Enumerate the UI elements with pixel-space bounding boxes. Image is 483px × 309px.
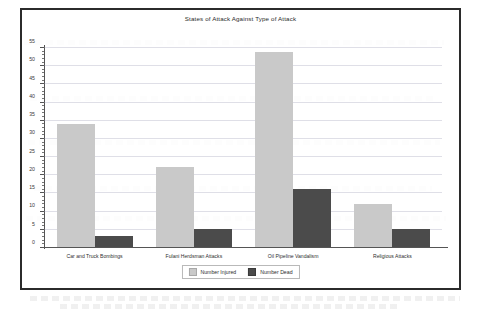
y-tick-label: 20 xyxy=(29,166,35,172)
y-tick-minor xyxy=(42,185,44,186)
chart-figure-frame: States of Attack Against Type of Attack … xyxy=(20,8,461,290)
y-tick-minor xyxy=(42,123,44,124)
bar-group: Car and Truck Bombings xyxy=(45,48,144,247)
y-tick-major: 55 xyxy=(40,47,44,48)
bar-injured[interactable] xyxy=(354,204,392,247)
y-tick-major: 35 xyxy=(40,120,44,121)
x-tick-label: Oil Pipeline Vandalism xyxy=(244,253,343,259)
y-tick-minor xyxy=(42,116,44,117)
legend-swatch-icon-injured xyxy=(188,268,196,276)
y-tick-minor xyxy=(42,127,44,128)
y-tick-label: 5 xyxy=(32,221,35,227)
y-tick-minor xyxy=(42,72,44,73)
y-tick-label: 40 xyxy=(29,93,35,99)
y-tick-minor xyxy=(42,232,44,233)
y-tick-label: 55 xyxy=(29,38,35,44)
y-tick-minor xyxy=(42,207,44,208)
y-tick-major: 0 xyxy=(40,247,44,248)
y-tick-major: 5 xyxy=(40,229,44,230)
y-tick-label: 30 xyxy=(29,129,35,135)
y-tick-minor xyxy=(42,145,44,146)
y-tick-minor xyxy=(42,152,44,153)
y-tick-minor xyxy=(42,131,44,132)
y-tick-label: 35 xyxy=(29,111,35,117)
y-tick-minor xyxy=(42,178,44,179)
y-tick-minor xyxy=(42,236,44,237)
bar-dead[interactable] xyxy=(293,189,331,247)
y-tick-minor xyxy=(42,80,44,81)
y-tick-minor xyxy=(42,105,44,106)
bar-injured[interactable] xyxy=(57,124,95,247)
y-tick-major: 40 xyxy=(40,102,44,103)
y-tick-minor xyxy=(42,62,44,63)
y-tick-minor xyxy=(42,142,44,143)
y-tick-minor xyxy=(42,58,44,59)
y-tick-minor xyxy=(42,76,44,77)
legend-item-dead[interactable]: Number Dead xyxy=(248,268,292,276)
y-tick-major: 20 xyxy=(40,174,44,175)
bar-group: Religious Attacks xyxy=(343,48,442,247)
x-tick-label: Fulani Herdsman Attacks xyxy=(144,253,243,259)
y-tick-minor xyxy=(42,196,44,197)
y-tick-minor xyxy=(42,109,44,110)
y-tick-minor xyxy=(42,94,44,95)
y-tick-minor xyxy=(42,200,44,201)
y-tick-minor xyxy=(42,167,44,168)
y-tick-label: 0 xyxy=(32,239,35,245)
y-tick-label: 25 xyxy=(29,148,35,154)
y-tick-major: 25 xyxy=(40,156,44,157)
y-tick-minor xyxy=(42,171,44,172)
y-tick-minor xyxy=(42,163,44,164)
y-tick-minor xyxy=(42,54,44,55)
x-tick-label: Car and Truck Bombings xyxy=(45,253,144,259)
y-tick-minor xyxy=(42,240,44,241)
y-tick-minor xyxy=(42,87,44,88)
bar-group: Oil Pipeline Vandalism xyxy=(244,48,343,247)
y-tick-label: 15 xyxy=(29,184,35,190)
y-tick-minor xyxy=(42,182,44,183)
y-tick-major: 15 xyxy=(40,192,44,193)
y-tick-minor xyxy=(42,91,44,92)
y-tick-label: 45 xyxy=(29,75,35,81)
chart-title: States of Attack Against Type of Attack xyxy=(22,15,459,22)
y-tick-label: 10 xyxy=(29,202,35,208)
y-tick-minor xyxy=(42,51,44,52)
bar-dead[interactable] xyxy=(95,236,133,247)
y-tick-minor xyxy=(42,243,44,244)
bar-group: Fulani Herdsman Attacks xyxy=(144,48,243,247)
bar-dead[interactable] xyxy=(392,229,430,247)
legend-label-injured: Number Injured xyxy=(200,269,236,275)
y-tick-minor xyxy=(42,69,44,70)
y-tick-minor xyxy=(42,214,44,215)
y-tick-minor xyxy=(42,149,44,150)
bar-injured[interactable] xyxy=(156,167,194,247)
y-tick-minor xyxy=(42,189,44,190)
y-tick-minor xyxy=(42,112,44,113)
plot-area: 0510152025303540455055 Car and Truck Bom… xyxy=(44,48,442,248)
y-tick-major: 10 xyxy=(40,211,44,212)
y-tick-minor xyxy=(42,134,44,135)
y-tick-major: 30 xyxy=(40,138,44,139)
bar-dead[interactable] xyxy=(194,229,232,247)
y-tick-minor xyxy=(42,218,44,219)
y-tick-major: 45 xyxy=(40,83,44,84)
x-tick-label: Religious Attacks xyxy=(343,253,442,259)
legend-item-injured[interactable]: Number Injured xyxy=(188,268,236,276)
bar-groups: Car and Truck BombingsFulani Herdsman At… xyxy=(45,48,442,247)
y-tick-minor xyxy=(42,98,44,99)
chart-legend: Number Injured Number Dead xyxy=(181,265,299,279)
x-axis-line xyxy=(44,247,448,248)
y-tick-minor xyxy=(42,160,44,161)
y-tick-minor xyxy=(42,222,44,223)
y-tick-minor xyxy=(42,203,44,204)
legend-swatch-icon-dead xyxy=(248,268,256,276)
y-tick-label: 50 xyxy=(29,56,35,62)
y-tick-major: 50 xyxy=(40,65,44,66)
bar-injured[interactable] xyxy=(255,52,293,247)
legend-label-dead: Number Dead xyxy=(260,269,292,275)
y-tick-minor xyxy=(42,225,44,226)
